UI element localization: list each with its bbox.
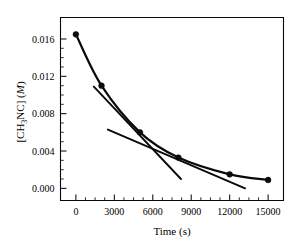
chart-figure: 03000600090001200015000 0.0000.0040.0080… (0, 0, 301, 246)
y-tick-label: 0.012 (32, 71, 55, 82)
x-tick-label: 9000 (181, 206, 201, 217)
y-tick-label: 0.000 (32, 183, 55, 194)
y-tick-label: 0.008 (32, 108, 55, 119)
data-point-4 (227, 171, 233, 177)
x-tick-label: 3000 (104, 206, 124, 217)
x-tick-label: 12000 (217, 206, 242, 217)
y-tick-label: 0.016 (32, 34, 55, 45)
kinetics-plot: 03000600090001200015000 0.0000.0040.0080… (0, 0, 301, 246)
data-point-0 (73, 31, 79, 37)
x-tick-label: 0 (73, 206, 78, 217)
x-tick-label: 15000 (256, 206, 281, 217)
y-tick-label: 0.004 (32, 146, 55, 157)
data-point-5 (265, 177, 271, 183)
data-point-3 (176, 155, 182, 161)
x-tick-label: 6000 (143, 206, 163, 217)
x-axis-title: Time (s) (153, 225, 191, 238)
data-point-2 (137, 129, 143, 135)
data-point-1 (99, 83, 105, 89)
